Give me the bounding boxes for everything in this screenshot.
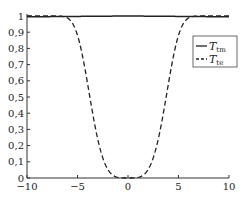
- y-tick-label: 0,8: [8, 43, 24, 54]
- x-tick-label: 0: [125, 181, 131, 192]
- y-tick-label: 0,9: [8, 27, 24, 38]
- y-tick-label: 0,3: [8, 124, 24, 135]
- y-tick-label: 0,2: [8, 140, 24, 151]
- y-tick-label: 0,1: [8, 156, 24, 167]
- y-tick-label: 0,6: [8, 75, 24, 86]
- legend: TtmTte: [193, 36, 237, 67]
- y-tick-label: 0,4: [8, 108, 24, 119]
- y-tick-label: 1: [18, 11, 24, 22]
- x-tick-label: 5: [175, 181, 181, 192]
- y-tick-label: 0,5: [8, 92, 24, 103]
- series-T_tm: [27, 16, 229, 17]
- x-tick-label: −5: [70, 181, 85, 192]
- line-chart: 00,10,20,30,40,50,60,70,80,91 −10−50510 …: [0, 0, 246, 202]
- y-tick-label: 0,7: [8, 59, 24, 70]
- x-tick-label: 10: [223, 181, 236, 192]
- x-tick-label: −10: [16, 181, 37, 192]
